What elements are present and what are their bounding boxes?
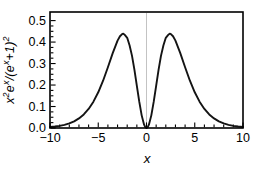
y-axis-label: x2ex/(ex+1)2 <box>3 36 17 104</box>
plot-area: −10−505100.00.10.20.30.40.5 <box>0 0 261 173</box>
y-tick-label: 0.1 <box>29 100 46 114</box>
x-axis-label: x <box>144 151 151 166</box>
y-axis-label-segment: e <box>3 65 17 72</box>
y-axis-label-superscript: 2 <box>1 36 11 41</box>
y-axis-label-superscript: x <box>1 80 11 85</box>
x-tick-label: 10 <box>236 131 250 145</box>
x-tick-label: 0 <box>143 131 150 145</box>
x-tick-label: 5 <box>191 131 198 145</box>
figure: −10−505100.00.10.20.30.40.5 x2ex/(ex+1)2… <box>0 0 261 173</box>
y-tick-label: 0.5 <box>29 14 46 28</box>
y-axis-label-segment: x <box>3 97 17 103</box>
y-axis-label-segment: e <box>3 85 17 92</box>
y-axis-label-superscript: x <box>1 60 11 65</box>
y-axis-label-superscript: 2 <box>1 92 11 97</box>
y-axis-label-segment: +1) <box>3 41 17 60</box>
y-tick-label: 0.4 <box>29 35 46 49</box>
y-tick-label: 0.2 <box>29 78 46 92</box>
y-tick-label: 0.0 <box>29 121 46 135</box>
y-axis-label-segment: /( <box>3 72 17 80</box>
y-tick-label: 0.3 <box>29 57 46 71</box>
x-tick-label: −5 <box>91 131 105 145</box>
